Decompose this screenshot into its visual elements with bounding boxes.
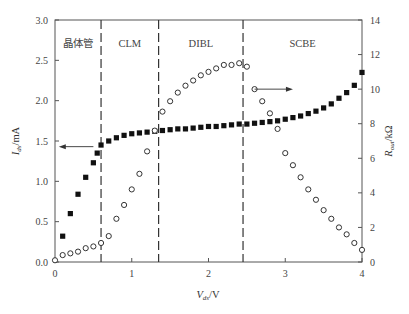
data-point-circle [68, 251, 73, 256]
data-point-circle [321, 208, 326, 213]
data-point-square [267, 119, 272, 124]
region-label: CLM [118, 38, 141, 49]
region-label: 晶体管 [63, 37, 93, 49]
right-y-tick-label: 10 [370, 84, 380, 95]
left-y-tick-label: 2.0 [36, 95, 49, 106]
data-point-square [275, 118, 280, 123]
data-point-circle [275, 126, 280, 131]
data-point-circle [306, 187, 311, 192]
data-point-square [60, 234, 65, 239]
data-point-square [175, 126, 180, 131]
data-point-circle [206, 69, 211, 74]
data-point-square [98, 142, 103, 147]
right-y-tick-label: 14 [370, 15, 380, 26]
data-point-square [329, 101, 334, 106]
data-point-square [221, 123, 226, 128]
data-point-circle [83, 246, 88, 251]
series-rout-circles [52, 61, 364, 263]
x-tick-label: 4 [360, 268, 365, 279]
data-point-square [106, 138, 111, 143]
data-point-circle [91, 244, 96, 249]
data-point-circle [145, 149, 150, 154]
data-point-square [237, 121, 242, 126]
data-point-square [352, 83, 357, 88]
right-y-tick-label: 8 [370, 118, 375, 129]
right-y-axis-title: Rout/kΩ [383, 125, 396, 158]
data-point-circle [60, 252, 65, 257]
data-point-square [160, 128, 165, 133]
data-point-square [290, 115, 295, 120]
data-point-circle [359, 247, 364, 252]
data-point-circle [168, 99, 173, 104]
data-point-square [229, 122, 234, 127]
data-point-circle [160, 109, 165, 114]
x-tick-label: 3 [283, 268, 288, 279]
data-point-circle [244, 64, 249, 69]
data-point-square [68, 211, 73, 216]
data-point-circle [121, 202, 126, 207]
data-point-circle [114, 216, 119, 221]
right-y-tick-label: 6 [370, 153, 375, 164]
data-point-circle [344, 232, 349, 237]
region-boundaries [101, 20, 243, 262]
data-point-circle [352, 240, 357, 245]
data-point-square [344, 90, 349, 95]
right-y-axis-ticks: 02468101214 [358, 15, 380, 268]
data-point-square [183, 126, 188, 131]
data-point-circle [137, 171, 142, 176]
data-point-circle [290, 163, 295, 168]
data-point-square [244, 121, 249, 126]
data-point-circle [313, 197, 318, 202]
x-tick-label: 1 [129, 268, 134, 279]
left-y-axis-title: Ids/mA [10, 126, 23, 156]
data-point-circle [267, 111, 272, 116]
arrow-left-icon [59, 144, 66, 149]
x-axis-title: Vds/V [196, 289, 220, 302]
data-point-square [260, 120, 265, 125]
data-point-circle [221, 62, 226, 67]
left-y-tick-label: 1.0 [36, 176, 49, 187]
right-y-tick-label: 0 [370, 257, 375, 268]
data-point-square [359, 70, 364, 75]
data-point-circle [183, 83, 188, 88]
left-y-tick-label: 2.5 [36, 55, 49, 66]
region-label: DIBL [189, 38, 214, 49]
data-point-circle [106, 233, 111, 238]
data-point-circle [75, 249, 80, 254]
data-point-square [206, 124, 211, 129]
data-point-circle [260, 99, 265, 104]
chart-canvas: 晶体管CLMDIBLSCBE 01234 0.00.51.01.52.02.53… [0, 0, 409, 314]
data-point-circle [175, 90, 180, 95]
data-point-square [145, 130, 150, 135]
data-point-circle [198, 73, 203, 78]
data-point-circle [229, 62, 234, 67]
data-point-circle [191, 78, 196, 83]
data-point-circle [237, 61, 242, 66]
data-point-square [191, 125, 196, 130]
data-point-square [121, 133, 126, 138]
x-tick-label: 0 [53, 268, 58, 279]
data-point-square [306, 111, 311, 116]
series-arrows [59, 87, 293, 150]
right-y-tick-label: 2 [370, 222, 375, 233]
data-point-square [252, 121, 257, 126]
right-y-tick-label: 4 [370, 187, 375, 198]
data-point-square [168, 127, 173, 132]
left-y-tick-label: 3.0 [36, 15, 49, 26]
data-point-circle [283, 151, 288, 156]
x-tick-label: 2 [206, 268, 211, 279]
series-ids-squares [60, 70, 365, 239]
data-point-square [75, 192, 80, 197]
data-point-square [198, 125, 203, 130]
data-point-square [83, 175, 88, 180]
left-y-tick-label: 0.0 [36, 257, 49, 268]
data-point-square [313, 109, 318, 114]
data-point-square [129, 131, 134, 136]
data-point-circle [329, 216, 334, 221]
right-y-tick-label: 12 [370, 49, 380, 60]
data-point-square [214, 124, 219, 129]
data-point-square [283, 117, 288, 122]
data-point-circle [214, 66, 219, 71]
data-point-circle [336, 225, 341, 230]
data-point-square [114, 135, 119, 140]
